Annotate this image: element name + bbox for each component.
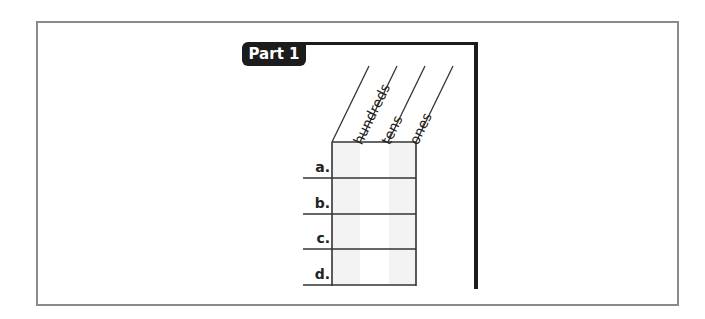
row-label-d: d. [306,266,330,282]
row-label-c: c. [306,230,330,246]
place-value-grid [0,0,705,319]
row-label-b: b. [306,195,330,211]
row-label-a: a. [306,159,330,175]
